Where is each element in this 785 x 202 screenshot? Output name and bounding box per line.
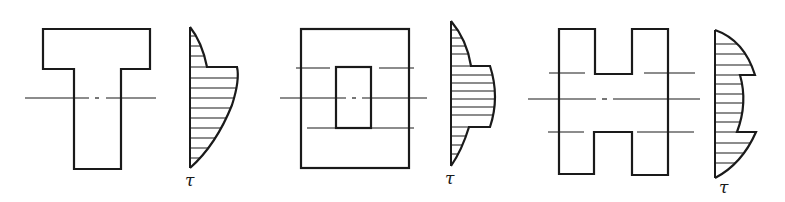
h-section-outline	[559, 29, 668, 175]
t-section-outline	[43, 29, 150, 169]
shear-stress-diagram	[449, 21, 500, 166]
hatching	[449, 30, 500, 154]
tau-label: τ	[445, 168, 455, 188]
shear-stress-diagram	[188, 27, 240, 168]
panel-box-section: τ	[280, 21, 500, 188]
shear-stress-figure: τ	[0, 0, 785, 202]
tau-label: τ	[185, 170, 195, 190]
hatching	[713, 44, 760, 163]
panel-t-section: τ	[25, 27, 240, 190]
tau-label: τ	[719, 177, 729, 197]
shear-stress-diagram	[713, 30, 760, 178]
panel-h-section: τ	[528, 29, 760, 197]
